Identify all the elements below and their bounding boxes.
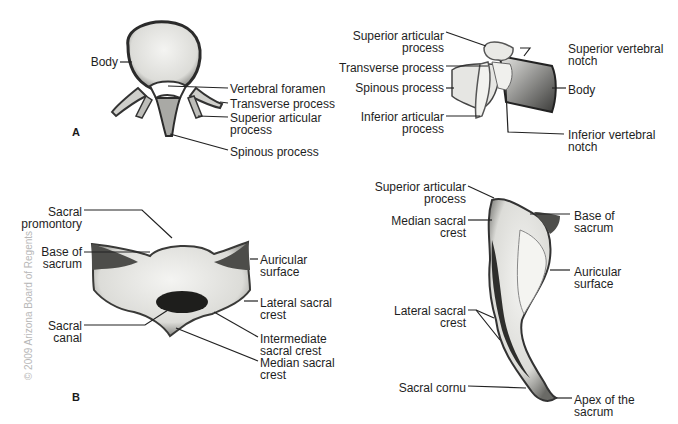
label-lateral-sacral-crest: crest	[260, 309, 286, 321]
label-spinous-process: Spinous process	[330, 82, 444, 94]
label-median-sacral-crest: crest	[260, 369, 286, 381]
label-median-sacral-crest-b: crest	[352, 227, 466, 239]
panel-label-b: B	[72, 391, 80, 403]
label-auricular-surface-b: surface	[574, 278, 613, 290]
label-superior-articular-process: process	[230, 124, 272, 136]
label-body: Body	[74, 56, 118, 68]
label-base-of-sacrum: sacrum	[10, 258, 82, 270]
sacrum-lateral-view	[489, 199, 560, 401]
label-sacral-canal-2: canal	[10, 332, 82, 344]
label-sacral-promontory: promontory	[10, 218, 82, 230]
label-sacral-cornu: Sacral cornu	[352, 382, 466, 394]
label-lateral-sacral-crest-b: crest	[352, 317, 466, 329]
label-superior-articular-process: process	[330, 42, 444, 54]
vertebra-superior-view	[112, 22, 222, 136]
anatomy-figure: Body Vertebral foramen Transverse proces…	[0, 0, 678, 424]
vertebra-lateral-view	[452, 42, 556, 118]
label-apex-sacrum: sacrum	[574, 406, 613, 418]
label-superior-articular-process-b: process	[352, 193, 466, 205]
sacrum-anterior-view	[92, 242, 250, 336]
panel-label-a: A	[72, 126, 80, 138]
label-inferior-vertebral-notch: notch	[568, 141, 597, 153]
label-inferior-articular-process: process	[330, 123, 444, 135]
label-auricular-surface: surface	[260, 266, 299, 278]
label-transverse-process: Transverse process	[230, 98, 335, 110]
label-base-of-sacrum-b: sacrum	[574, 222, 613, 234]
label-transverse-process: Transverse process	[330, 62, 444, 74]
label-body-lateral: Body	[568, 84, 595, 96]
label-vertebral-foramen: Vertebral foramen	[230, 83, 325, 95]
label-superior-vertebral-notch: notch	[568, 55, 597, 67]
label-spinous-process: Spinous process	[230, 146, 319, 158]
copyright-notice: © 2009 Arizona Board of Regents	[23, 226, 34, 386]
